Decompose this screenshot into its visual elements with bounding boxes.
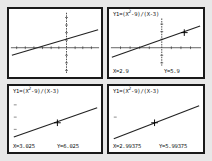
graph-plot-1 — [9, 9, 101, 77]
function-curve — [112, 26, 200, 57]
graph-screen-2: Y1=(X2-9)/(X-3) X=2.9 Y=5.9 — [109, 9, 203, 77]
calculator-panel-top-right[interactable]: Y1=(X2-9)/(X-3) X=2.9 Y=5.9 — [107, 7, 205, 79]
trace-x-value-3: X=3.025 — [13, 142, 35, 150]
trace-y-value-2: Y=5.9 — [164, 67, 180, 75]
equation-label-4: Y1=(X2-9)/(X-3) — [113, 88, 159, 95]
y-axis-ticks — [14, 105, 17, 130]
trace-x-value-4: X=2.99375 — [113, 142, 141, 150]
trace-cursor — [151, 119, 158, 126]
calculator-panel-bottom-right[interactable]: Y1=(X2-9)/(X-3) X=2.99375 Y=5.99375 — [107, 84, 205, 154]
function-curve — [12, 30, 98, 56]
calculator-panel-bottom-left[interactable]: Y1=(X2-9)/(X-3) X=3.025 Y=6.025 — [7, 84, 103, 154]
graph-screen-3: Y1=(X2-9)/(X-3) X=3.025 Y=6.025 — [9, 86, 101, 152]
trace-coordinates-3: X=3.025 Y=6.025 — [9, 142, 101, 150]
equation-label-2: Y1=(X2-9)/(X-3) — [113, 11, 159, 18]
trace-x-value-2: X=2.9 — [113, 67, 129, 75]
trace-coordinates-2: X=2.9 Y=5.9 — [109, 67, 203, 75]
trace-coordinates-4: X=2.99375 Y=5.99375 — [109, 142, 203, 150]
graph-screen-1 — [9, 9, 101, 77]
calculator-screen-grid: Y1=(X2-9)/(X-3) X=2.9 Y=5.9 — [0, 0, 212, 161]
trace-y-value-4: Y=5.99375 — [159, 142, 187, 150]
calculator-panel-top-left[interactable] — [7, 7, 103, 79]
equation-label-3: Y1=(X2-9)/(X-3) — [13, 88, 59, 95]
graph-screen-4: Y1=(X2-9)/(X-3) X=2.99375 Y=5.99375 — [109, 86, 203, 152]
trace-y-value-3: Y=6.025 — [57, 142, 79, 150]
